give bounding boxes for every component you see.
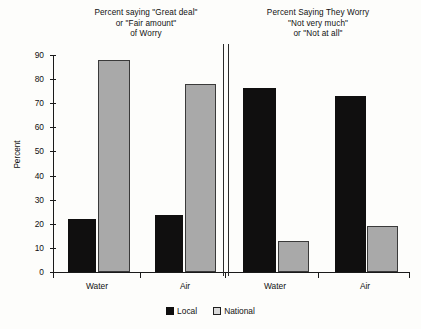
chart-legend: Local National — [0, 306, 421, 316]
y-tick-label: 40 — [24, 171, 44, 181]
y-axis-line — [53, 55, 54, 273]
x-label-water-notworry: Water — [235, 281, 315, 291]
bar-local-air-worry — [155, 215, 183, 272]
y-tick-label: 70 — [24, 98, 44, 108]
y-tick-label: 0 — [24, 267, 44, 277]
bar-local-air-notworry — [335, 96, 366, 272]
legend-label-local: Local — [177, 306, 197, 316]
panel-divider-line-left — [223, 44, 224, 276]
bar-local-water-worry — [68, 219, 96, 272]
y-tick-label: 60 — [24, 122, 44, 132]
panel-divider-line-right — [228, 44, 229, 276]
y-tick-label: 50 — [24, 146, 44, 156]
x-axis-end-tick-left — [53, 272, 54, 278]
x-label-air-notworry: Air — [325, 281, 405, 291]
bar-chart: Percent saying "Great deal" or "Fair amo… — [0, 0, 421, 329]
x-axis-line — [53, 272, 410, 273]
x-axis-end-tick-right — [409, 272, 410, 278]
legend-label-national: National — [224, 306, 255, 316]
x-group-separator-tick — [318, 272, 319, 278]
y-axis-label: Percent — [13, 125, 22, 185]
y-tick-label: 30 — [24, 195, 44, 205]
bar-local-water-notworry — [243, 88, 276, 272]
bar-national-water-worry — [98, 60, 130, 272]
y-tick-label-group: 0 10 20 30 40 50 60 70 80 90 — [22, 0, 44, 329]
x-group-separator-tick — [225, 272, 226, 278]
y-tick-label: 90 — [24, 50, 44, 60]
bar-national-air-notworry — [367, 226, 398, 272]
x-label-air-worry: Air — [145, 281, 225, 291]
legend-item-national: National — [213, 306, 255, 316]
legend-swatch-local-icon — [166, 307, 174, 315]
y-tick-label: 80 — [24, 74, 44, 84]
y-tick-label: 10 — [24, 243, 44, 253]
x-group-separator-tick — [140, 272, 141, 278]
y-tick-label: 20 — [24, 219, 44, 229]
bar-national-air-worry — [185, 84, 216, 272]
plot-area: Percent 0 10 20 30 40 50 60 70 80 90 — [0, 0, 421, 329]
legend-item-local: Local — [166, 306, 197, 316]
legend-swatch-national-icon — [213, 307, 221, 315]
x-label-water-worry: Water — [57, 281, 137, 291]
bar-national-water-notworry — [278, 241, 309, 272]
